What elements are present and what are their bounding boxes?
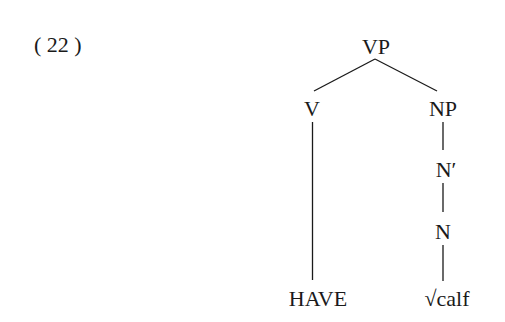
node-v: V (304, 96, 320, 121)
node-nbar: N′ (436, 157, 457, 182)
node-np: NP (429, 96, 457, 121)
example-number: ( 22 ) (34, 32, 82, 57)
node-n: N (435, 219, 451, 244)
edge-vp-v (314, 59, 375, 91)
node-calf: √calf (424, 286, 470, 311)
node-have: HAVE (289, 286, 347, 311)
syntax-tree-diagram: ( 22 ) VP V NP N′ N HAVE √calf (0, 0, 505, 322)
edge-vp-np (375, 59, 437, 91)
node-vp: VP (362, 34, 390, 59)
